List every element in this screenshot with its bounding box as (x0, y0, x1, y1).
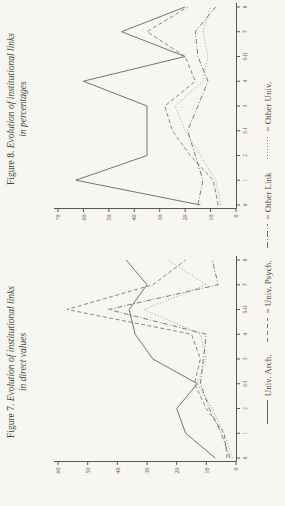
series-other-link (108, 260, 230, 458)
y-tick-label: 70 (55, 215, 61, 221)
series-univ-psych (147, 7, 218, 205)
legend-item-univ-psych: = Univ. Psych. (263, 261, 273, 342)
y-tick-label: 60 (55, 468, 61, 474)
y-tick-label: 20 (182, 215, 188, 221)
x-tick-label: S-II (242, 305, 248, 313)
x-axis-ticks: 012S-I34S-II78 (237, 258, 248, 459)
y-tick-label: 50 (85, 468, 91, 474)
legend-label: = Other Univ. (263, 82, 273, 132)
dotted-line-sample-icon (267, 136, 268, 160)
x-tick-label: 8 (242, 5, 248, 8)
y-tick-label: 10 (208, 215, 214, 221)
solid-line-sample-icon (267, 400, 268, 424)
x-tick-label: 3 (242, 104, 248, 107)
y-axis-ticks: 010203040506070 (55, 209, 239, 221)
x-tick-label: 0 (242, 456, 248, 459)
y-tick-label: 20 (174, 468, 180, 474)
series-other-univ (144, 260, 233, 458)
legend-label: = Univ. Psych. (263, 261, 273, 314)
y-tick-label: 40 (115, 468, 121, 474)
x-tick-label: 7 (242, 283, 248, 286)
y-tick-label: 30 (144, 468, 150, 474)
legend-label: = Other Link (263, 173, 273, 220)
legend-label: Univ. Arch. (263, 355, 273, 397)
y-tick-label: 0 (233, 468, 239, 471)
series-other-link (188, 7, 216, 205)
x-tick-label: 1 (242, 179, 248, 182)
y-axis-ticks: 0102030405060 (55, 462, 239, 474)
figure8-line-chart: 010203040506070012S-I34S-II78 (0, 0, 250, 253)
y-tick-label: 30 (157, 215, 163, 221)
dashdot-line-sample-icon (267, 224, 268, 248)
y-tick-label: 40 (131, 215, 137, 221)
series-univ-arch (76, 7, 201, 205)
y-tick-label: 50 (106, 215, 112, 221)
x-tick-label: 7 (242, 30, 248, 33)
x-tick-label: S-I (242, 127, 248, 134)
x-tick-label: 2 (242, 407, 248, 410)
x-tick-label: S-II (242, 52, 248, 60)
legend-item-other-link: = Other Link (263, 173, 273, 248)
x-tick-label: 8 (242, 258, 248, 261)
y-tick-label: 0 (233, 215, 239, 218)
x-tick-label: 2 (242, 154, 248, 157)
y-tick-label: 10 (204, 468, 210, 474)
x-tick-label: 3 (242, 357, 248, 360)
legend-item-other-univ: = Other Univ. (263, 82, 273, 160)
x-tick-label: 4 (242, 80, 248, 83)
dashed-line-sample-icon (267, 318, 268, 342)
figure8-panel: Figure 8. Evolution of institutional lin… (0, 0, 250, 253)
figure7-panel: Figure 7. Evolution of institutional lin… (0, 253, 250, 506)
chart-legend: Univ. Arch.= Univ. Psych.= Other Link= O… (250, 0, 285, 506)
rotated-figure-page: Figure 7. Evolution of institutional lin… (0, 0, 285, 506)
x-tick-label: 4 (242, 333, 248, 336)
x-tick-label: 1 (242, 432, 248, 435)
x-axis-ticks: 012S-I34S-II78 (237, 5, 248, 206)
series-univ-arch (126, 260, 215, 458)
y-tick-label: 60 (81, 215, 87, 221)
x-tick-label: S-I (242, 380, 248, 387)
legend-item-univ-arch: Univ. Arch. (263, 355, 273, 425)
x-tick-label: 0 (242, 203, 248, 206)
figure7-line-chart: 0102030405060012S-I34S-II78 (0, 253, 250, 506)
